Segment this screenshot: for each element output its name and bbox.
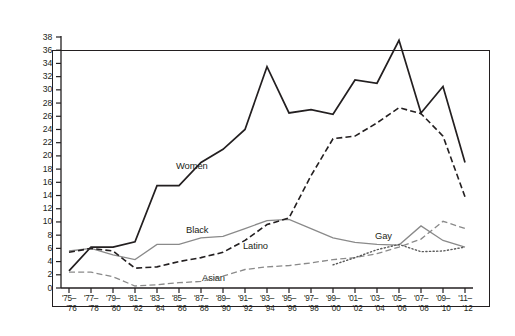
chart-plot-frame <box>52 50 490 307</box>
chart-figure: 38363432302826242220181614121086420 '75–… <box>0 0 515 336</box>
series-label-latino: Latino <box>243 240 268 251</box>
y-axis-tick-label: 8 <box>34 230 52 240</box>
series-label-gay: Gay <box>375 230 392 241</box>
series-label-black: Black <box>186 224 208 235</box>
y-axis-tick-label: 0 <box>34 283 52 293</box>
y-axis-tick-label: 36 <box>34 45 52 55</box>
x-tick-year-start: '79– <box>106 294 120 303</box>
x-tick-year-start: '11– <box>458 294 471 303</box>
x-tick-year-start: '95– <box>282 294 296 303</box>
y-axis-tick-label: 24 <box>34 124 52 134</box>
x-axis-tick-label: '11–'12 <box>450 294 480 313</box>
x-tick-year-start: '91– <box>238 294 252 303</box>
x-tick-year-start: '07– <box>414 294 428 303</box>
series-label-asian: Asian <box>202 272 225 283</box>
y-axis-tick-label: 20 <box>34 150 52 160</box>
y-axis-tick-label: 30 <box>34 84 52 94</box>
x-tick-year-start: '01– <box>348 294 362 303</box>
x-tick-year-start: '05– <box>392 294 406 303</box>
x-tick-year-start: '81– <box>128 294 142 303</box>
y-axis-tick-label: 34 <box>34 58 52 68</box>
y-axis-tick-label: 22 <box>34 137 52 147</box>
x-tick-year-start: '75– <box>62 294 76 303</box>
x-tick-year-start: '85– <box>172 294 186 303</box>
x-tick-year-start: '93– <box>260 294 274 303</box>
x-tick-year-start: '89– <box>216 294 230 303</box>
y-axis-tick-label: 16 <box>34 177 52 187</box>
y-axis-tick-label: 18 <box>34 164 52 174</box>
y-axis-tick-label: 12 <box>34 203 52 213</box>
y-axis-tick-label: 2 <box>34 269 52 279</box>
x-tick-year-start: '03– <box>370 294 384 303</box>
series-label-women: Women <box>176 160 208 171</box>
y-axis-tick-label: 6 <box>34 243 52 253</box>
x-tick-year-start: '97– <box>304 294 318 303</box>
x-tick-year-start: '77– <box>84 294 98 303</box>
x-tick-year-end: '12 <box>450 304 480 314</box>
y-axis-tick-label: 28 <box>34 98 52 108</box>
x-tick-year-start: '09– <box>436 294 450 303</box>
y-axis-tick-label: 4 <box>34 256 52 266</box>
y-axis-tick-label: 38 <box>34 32 52 42</box>
y-axis-tick-label: 10 <box>34 216 52 226</box>
y-axis-tick-label: 32 <box>34 71 52 81</box>
x-tick-year-start: '99– <box>326 294 340 303</box>
y-axis-tick-label: 14 <box>34 190 52 200</box>
x-tick-year-start: '83– <box>150 294 164 303</box>
x-tick-year-start: '87– <box>194 294 208 303</box>
y-axis-tick-label: 26 <box>34 111 52 121</box>
